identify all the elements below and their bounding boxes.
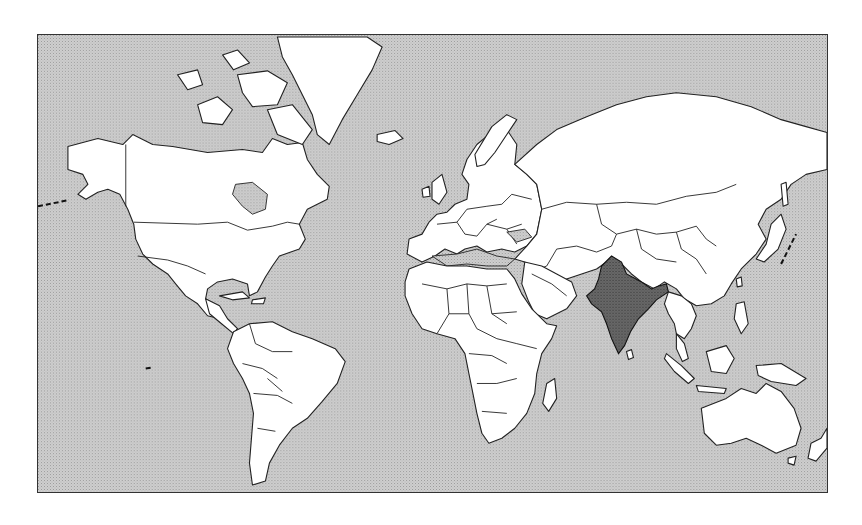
taiwan bbox=[736, 277, 742, 287]
tasmania bbox=[788, 456, 796, 465]
world-map-svg bbox=[38, 35, 827, 492]
world-map bbox=[37, 34, 828, 493]
